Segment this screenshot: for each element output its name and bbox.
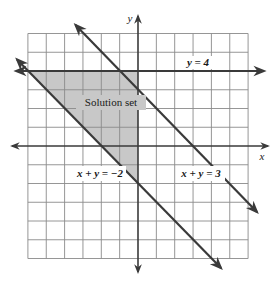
x-plus-y-equals-neg2-label: x + y = −2 — [76, 167, 124, 179]
x-plus-y-equals-3-label: x + y = 3 — [180, 167, 221, 179]
y-equals-4-label: y = 4 — [185, 56, 210, 68]
graph-figure: Solution set y = 4 x + y = 3 x + y = −2 … — [0, 0, 276, 289]
solution-set-label: Solution set — [85, 96, 137, 108]
coordinate-plane: Solution set y = 4 x + y = 3 x + y = −2 … — [0, 0, 276, 289]
y-axis-label: y — [127, 12, 133, 24]
x-axis-label: x — [259, 150, 265, 162]
